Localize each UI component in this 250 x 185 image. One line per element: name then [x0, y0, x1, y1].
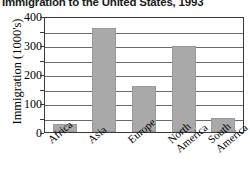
bar	[92, 28, 116, 132]
plot-area	[44, 17, 244, 133]
bar-chart: Immigration to the United States, 1993 I…	[0, 0, 250, 185]
bars-group	[45, 18, 243, 132]
y-tick-label: 0	[16, 127, 42, 139]
x-axis-tick-labels: AfricaAsiaEuropeNorth AmericaSouth Ameri…	[44, 133, 244, 185]
chart-title: Immigration to the United States, 1993	[2, 0, 250, 8]
y-tick-label: 400	[16, 11, 42, 23]
y-axis-tick-labels: 0100200300400	[12, 17, 42, 133]
y-tick-label: 100	[16, 98, 42, 110]
y-tick-label: 300	[16, 40, 42, 52]
y-tick-label: 200	[16, 69, 42, 81]
